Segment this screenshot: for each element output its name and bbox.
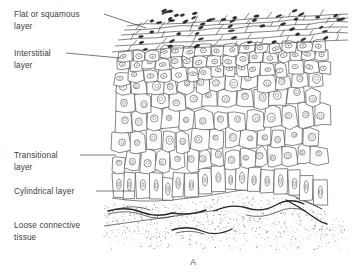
stipple-dot (313, 211, 314, 212)
stipple-dot (285, 204, 286, 205)
stipple-dot (206, 213, 207, 214)
nucleolus (122, 63, 123, 64)
stipple-dot (292, 213, 293, 214)
transitional-layer-cells (111, 69, 331, 174)
stipple-dot (322, 229, 323, 230)
stipple-dot (175, 205, 176, 206)
stipple-dot (297, 246, 298, 247)
stipple-dot (200, 216, 201, 217)
stipple-dot (182, 242, 183, 243)
stipple-dot (110, 242, 111, 243)
stipple-dot (212, 207, 213, 208)
cell-nucleus (134, 140, 139, 146)
stipple-dot (247, 197, 248, 198)
stipple-dot (329, 229, 330, 230)
stipple-dot (318, 246, 319, 247)
stipple-dot (324, 235, 325, 236)
stipple-dot (287, 202, 288, 203)
stipple-dot (113, 203, 114, 204)
cell-nucleus (300, 37, 306, 41)
stipple-dot (205, 205, 206, 206)
stipple-dot (141, 217, 142, 218)
stipple-dot (314, 249, 315, 250)
stipple-dot (158, 210, 159, 211)
stipple-dot (229, 237, 230, 238)
stipple-dot (333, 227, 334, 228)
stipple-dot (209, 224, 210, 225)
stipple-dot (229, 234, 230, 235)
stipple-dot (207, 228, 208, 229)
stipple-dot (156, 222, 157, 223)
stipple-dot (213, 199, 214, 200)
stipple-dot (140, 246, 141, 247)
stipple-dot (159, 236, 160, 237)
nucleolus (174, 60, 175, 61)
stipple-dot (261, 200, 262, 201)
stipple-dot (256, 229, 257, 230)
stipple-dot (185, 221, 186, 222)
stipple-dot (251, 230, 252, 231)
stipple-dot (233, 219, 234, 220)
stipple-dot (142, 209, 143, 210)
stipple-dot (212, 201, 213, 202)
nucleolus (267, 69, 268, 70)
cell-nucleus (232, 16, 237, 19)
stipple-dot (252, 199, 253, 200)
stipple-dot (125, 203, 126, 204)
stipple-dot (255, 231, 256, 232)
cell-nucleus (139, 41, 144, 45)
stipple-dot (259, 245, 260, 246)
stipple-dot (243, 218, 244, 219)
squamous-cell-boundary (143, 20, 149, 26)
cell-nucleus (202, 174, 207, 186)
nucleolus (136, 64, 137, 65)
cell-nucleus (144, 159, 151, 167)
stipple-dot (173, 208, 174, 209)
stipple-dot (220, 223, 221, 224)
cell-nucleus (227, 24, 233, 28)
stipple-dot (342, 230, 343, 231)
stipple-dot (164, 231, 165, 232)
stipple-dot (160, 244, 161, 245)
stipple-dot (282, 237, 283, 238)
stipple-dot (337, 245, 338, 246)
stipple-dot (292, 236, 293, 237)
cell-nucleus (176, 178, 180, 189)
stipple-dot (232, 203, 233, 204)
stipple-dot (234, 248, 235, 249)
stipple-dot (220, 230, 221, 231)
stipple-dot (299, 242, 300, 243)
stipple-dot (233, 238, 234, 239)
stipple-dot (117, 242, 118, 243)
stipple-dot (161, 241, 162, 242)
stipple-dot (290, 204, 291, 205)
stipple-dot (297, 229, 298, 230)
cell-nucleus (313, 74, 321, 83)
stipple-dot (217, 211, 218, 212)
stipple-dot (208, 221, 209, 222)
stipple-dot (248, 211, 249, 212)
stipple-dot (108, 207, 109, 208)
stipple-dot (118, 218, 119, 219)
stipple-dot (268, 231, 269, 232)
stipple-dot (156, 232, 157, 233)
stipple-dot (288, 231, 289, 232)
stipple-dot (265, 230, 266, 231)
stipple-dot (177, 209, 178, 210)
stipple-dot (227, 211, 228, 212)
stipple-dot (150, 221, 151, 222)
stipple-dot (104, 213, 105, 214)
stipple-dot (290, 242, 291, 243)
stipple-dot (112, 249, 113, 250)
leader-flat-or-squamous-layer (104, 14, 146, 28)
stipple-dot (226, 226, 227, 227)
stipple-dot (105, 236, 106, 237)
stipple-dot (201, 201, 202, 202)
stipple-dot (334, 220, 335, 221)
cell-nucleus (189, 180, 193, 190)
stipple-dot (326, 216, 327, 217)
stipple-dot (259, 227, 260, 228)
stipple-dot (109, 212, 110, 213)
stipple-dot (154, 236, 155, 237)
stipple-dot (304, 228, 305, 229)
